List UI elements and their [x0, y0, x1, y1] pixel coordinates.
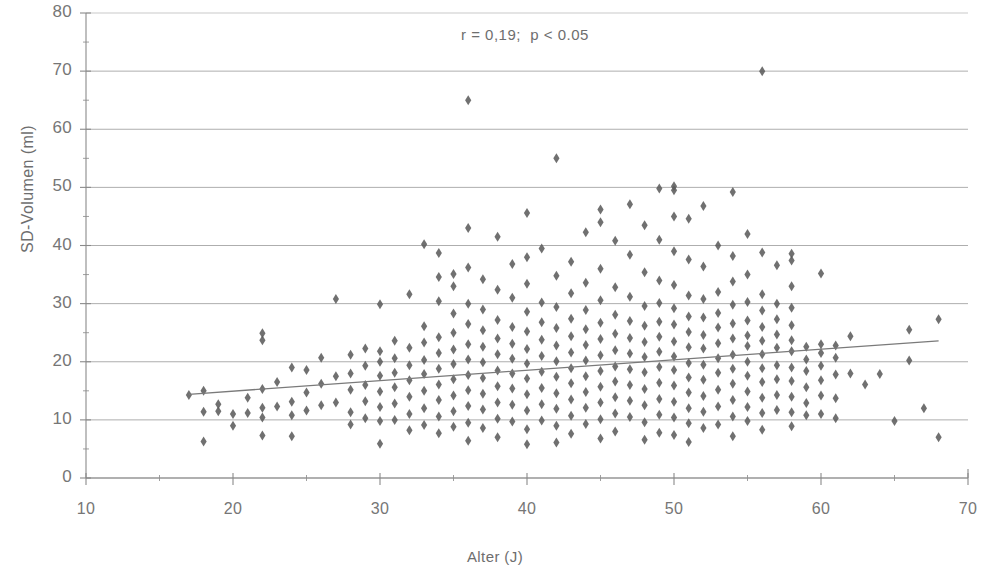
data-point	[686, 403, 692, 413]
data-point	[715, 338, 721, 348]
data-point	[818, 409, 824, 419]
data-point	[362, 396, 368, 406]
data-point	[686, 290, 692, 300]
data-point	[656, 428, 662, 438]
data-point	[833, 353, 839, 363]
y-tick-label-60: 60	[20, 118, 72, 138]
data-point	[818, 361, 824, 371]
data-point	[612, 282, 618, 292]
data-point	[406, 343, 412, 353]
data-point	[627, 396, 633, 406]
data-point	[686, 214, 692, 224]
data-point	[744, 229, 750, 239]
data-point	[539, 351, 545, 361]
data-point	[362, 361, 368, 371]
data-point	[406, 289, 412, 299]
data-point	[421, 321, 427, 331]
data-point	[656, 394, 662, 404]
data-point	[318, 353, 324, 363]
data-point	[730, 431, 736, 441]
data-point	[906, 325, 912, 335]
data-point	[553, 421, 559, 431]
data-point	[539, 335, 545, 345]
data-point	[318, 379, 324, 389]
data-point	[348, 407, 354, 417]
x-tick-label-70: 70	[938, 500, 990, 518]
data-point	[318, 400, 324, 410]
data-point	[201, 436, 207, 446]
data-point	[700, 343, 706, 353]
data-point	[789, 335, 795, 345]
data-point	[509, 368, 515, 378]
data-point	[789, 421, 795, 431]
scatter-plot-figure: SD-Volumen (ml) Alter (J) 01020304050607…	[0, 0, 990, 588]
data-point	[627, 316, 633, 326]
data-point	[465, 401, 471, 411]
data-point	[289, 431, 295, 441]
data-point	[656, 184, 662, 194]
data-point	[818, 268, 824, 278]
data-point	[568, 363, 574, 373]
data-point	[656, 275, 662, 285]
data-point	[539, 243, 545, 253]
data-point	[730, 364, 736, 374]
data-point	[686, 327, 692, 337]
data-point	[568, 429, 574, 439]
data-point	[642, 220, 648, 230]
data-point	[450, 406, 456, 416]
data-point	[524, 344, 530, 354]
data-point	[421, 338, 427, 348]
data-point	[627, 250, 633, 260]
data-point	[259, 431, 265, 441]
data-point	[612, 236, 618, 246]
data-point	[421, 403, 427, 413]
data-point	[597, 204, 603, 214]
data-point	[480, 404, 486, 414]
data-point	[583, 324, 589, 334]
data-point	[568, 288, 574, 298]
data-point	[406, 375, 412, 385]
y-tick-label-40: 40	[20, 235, 72, 255]
trendline	[189, 341, 939, 394]
data-point	[774, 314, 780, 324]
data-point	[421, 420, 427, 430]
data-point	[803, 398, 809, 408]
data-point	[671, 303, 677, 313]
data-point	[671, 397, 677, 407]
data-point	[642, 417, 648, 427]
data-point	[259, 413, 265, 423]
data-point	[524, 327, 530, 337]
data-point	[465, 263, 471, 273]
data-point	[627, 412, 633, 422]
data-point	[774, 260, 780, 270]
data-point	[597, 414, 603, 424]
data-point	[715, 368, 721, 378]
data-point	[509, 322, 515, 332]
data-point	[583, 356, 589, 366]
data-point	[612, 392, 618, 402]
y-tick-label-80: 80	[20, 2, 72, 22]
x-tick-label-60: 60	[791, 500, 851, 518]
data-point	[597, 318, 603, 328]
data-point	[524, 374, 530, 384]
data-point	[495, 397, 501, 407]
minor-ticks	[83, 42, 895, 481]
data-point	[568, 257, 574, 267]
data-point	[597, 217, 603, 227]
data-point	[744, 357, 750, 367]
data-point	[465, 319, 471, 329]
data-point	[818, 375, 824, 385]
data-point	[392, 399, 398, 409]
data-point	[671, 336, 677, 346]
data-point	[744, 386, 750, 396]
data-point	[715, 402, 721, 412]
data-point	[730, 187, 736, 197]
data-point	[744, 341, 750, 351]
data-point	[583, 305, 589, 315]
data-point	[789, 281, 795, 291]
data-point	[333, 371, 339, 381]
data-point	[656, 298, 662, 308]
data-point	[553, 323, 559, 333]
data-point	[759, 306, 765, 316]
data-point	[377, 346, 383, 356]
